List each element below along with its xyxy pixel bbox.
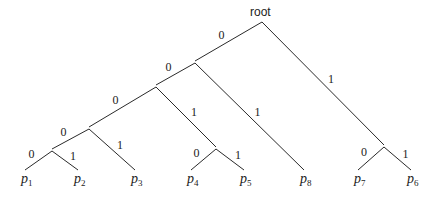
leaf-p2: p2	[73, 171, 86, 188]
edge-n0-p8	[195, 63, 304, 170]
leaf-p7: p7	[353, 171, 366, 188]
edge-label-0: 0	[61, 125, 67, 139]
root-label: root	[250, 5, 271, 19]
edge-label-0: 0	[194, 146, 200, 160]
leaf-p1: p1	[20, 171, 33, 188]
edge-n00-n000	[89, 87, 156, 127]
edge-label-1: 1	[328, 72, 334, 86]
edge-label-1: 1	[191, 105, 197, 119]
leaf-p4: p4	[186, 171, 199, 188]
edge-label-1: 1	[403, 147, 409, 161]
leaf-p8: p8	[299, 171, 312, 188]
edge-n000-n0000	[52, 129, 89, 149]
leaf-p3: p3	[130, 171, 143, 188]
tree-edges	[25, 22, 411, 170]
code-tree-diagram: 01010101010101 p1p2p3p4p5p8p7p6 root	[0, 0, 442, 200]
edge-label-1: 1	[235, 148, 241, 162]
leaf-p5: p5	[239, 171, 252, 188]
leaf-p6: p6	[406, 171, 419, 188]
edge-n0-n00	[156, 63, 195, 85]
edge-label-1: 1	[117, 138, 123, 152]
edge-root-n0	[195, 22, 262, 61]
edge-label-0: 0	[29, 147, 35, 161]
edge-n000-p3	[89, 129, 135, 170]
edge-root-n1	[262, 22, 384, 145]
tree-svg: 01010101010101 p1p2p3p4p5p8p7p6 root	[0, 0, 442, 200]
edge-label-1: 1	[70, 149, 76, 163]
tree-leaves: p1p2p3p4p5p8p7p6	[20, 171, 419, 188]
edge-label-0: 0	[113, 93, 119, 107]
edge-label-0: 0	[361, 145, 367, 159]
edge-label-0: 0	[166, 60, 172, 74]
edge-n00-n001	[156, 87, 216, 147]
edge-label-1: 1	[255, 105, 261, 119]
edge-label-0: 0	[219, 28, 225, 42]
